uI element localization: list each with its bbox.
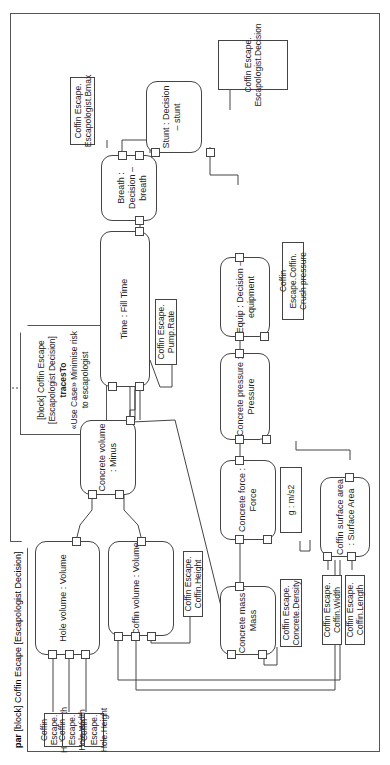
property-coffin-width: Coffin Escape. Coffin.Width: [322, 575, 342, 645]
port-pressure-a: [262, 435, 271, 444]
constraint-concrete-volume: Concrete volume : Minus: [80, 420, 136, 495]
property-concrete-density: Coffin Escape. Concrete.Density: [280, 579, 302, 647]
port-stunt-breath-result: [151, 148, 160, 157]
port-breath-result: [118, 151, 127, 160]
constraint-title: Breath : Decision – breath: [116, 156, 149, 220]
constraint-title: Equip : Decision – equipment: [235, 258, 257, 336]
parametric-diagram-canvas: par [block] Coffin Escape [Escapologist …: [0, 0, 390, 765]
port-hole-w: [65, 650, 74, 659]
constraint-title: Concrete pressure : Pressure: [235, 354, 257, 439]
port-time-t: [135, 227, 144, 236]
port-surface-l: [347, 552, 356, 561]
constraint-coffin-volume: Coffin volume : Volume: [108, 541, 174, 636]
port-breath-breath-time: [135, 151, 144, 160]
port-stunt-equipment-result: [206, 148, 215, 157]
property-crush-pressure: Coffin Escape.Coffin. Crush pressure: [282, 242, 304, 320]
traces-to-note: [block] Coffin Escape [Escapologist Deci…: [20, 325, 107, 435]
port-equip-strength: [260, 332, 269, 341]
port-pressure-f: [235, 435, 244, 444]
port-coffin-w: [131, 632, 140, 641]
constraint-title: Concrete mass : Mass: [237, 587, 259, 654]
port-coffin-h: [147, 632, 156, 641]
constraint-hole-volume: Hole volume : Volume: [35, 541, 100, 655]
constraint-title: Concrete force : Force: [237, 461, 259, 539]
constraint-title: Stunt : Decision – stunt: [161, 82, 183, 152]
port-coffin-l: [114, 632, 123, 641]
note-keyword: tracesTo: [58, 330, 69, 430]
port-equip-pressure: [235, 332, 244, 341]
port-force-a: [263, 535, 272, 544]
property-hole-height: Coffin Escape. Hole.Height: [84, 713, 104, 747]
property-bmax: Coffin Escape. Escapologist.Bmax: [70, 77, 95, 145]
port-time-v: [108, 382, 117, 391]
note-header: [block] Coffin Escape [Escapologist Deci…: [36, 330, 58, 430]
port-force-f: [235, 456, 244, 465]
property-coffin-length: Coffin Escape. Coffin.Length: [345, 575, 365, 645]
constraint-title: Coffin surface area : Surface Area: [335, 478, 357, 556]
port-coffin-v: [137, 537, 146, 546]
property-coffin-height: Coffin Escape. Coffin.Height: [183, 551, 203, 617]
constraint-title: Time : Fill Time: [119, 232, 130, 386]
port-surface-w: [323, 552, 332, 561]
constraint-title: Hole volume : Volume: [58, 542, 69, 654]
port-mass-v: [227, 650, 236, 659]
port-concrete-volume-r: [126, 416, 135, 425]
constraint-concrete-force: Concrete force : Force: [220, 460, 276, 540]
constraint-concrete-pressure: Concrete pressure : Pressure: [220, 353, 270, 440]
note-body: «Use Case» Minimise risk to escapologist: [69, 330, 91, 430]
port-surface-sa: [345, 473, 354, 482]
port-mass-d: [258, 650, 267, 659]
port-hole-l: [48, 650, 57, 659]
port-breath-fill-time: [135, 216, 144, 225]
constraint-concrete-mass: Concrete mass : Mass: [220, 586, 276, 655]
constraint-stunt: Stunt : Decision – stunt: [146, 81, 202, 153]
port-time-r: [135, 382, 144, 391]
constraint-coffin-surface-area: Coffin surface area : Surface Area: [320, 477, 370, 557]
constraint-equip: Equip : Decision – equipment: [220, 257, 270, 337]
port-force-m: [235, 535, 244, 544]
port-hole-v: [72, 537, 81, 546]
port-mass-m: [235, 582, 244, 591]
port-concrete-volume-a: [88, 490, 97, 499]
port-equip-result: [235, 253, 244, 262]
property-pump-rate: Coffin Escape. Pump.Rate: [155, 299, 177, 365]
property-escapologist-decision: Coffin Escape. Escapologist.Decision: [218, 40, 288, 90]
port-pressure-p: [235, 349, 244, 358]
port-concrete-volume-b: [115, 490, 124, 499]
constraint-title: Coffin volume : Volume: [131, 542, 142, 635]
constraint-breath: Breath : Decision – breath: [101, 155, 157, 221]
constraint-title: Concrete volume : Minus: [97, 421, 119, 494]
port-hole-h: [81, 650, 90, 659]
constraint-time: Time : Fill Time: [100, 231, 150, 387]
property-g: g : m/s2: [280, 467, 302, 533]
